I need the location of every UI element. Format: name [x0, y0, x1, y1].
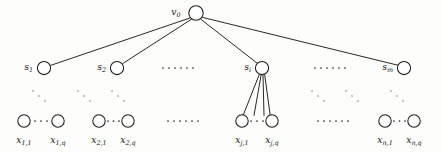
edge-si-to-xj-mid-right	[263, 75, 264, 116]
group-2-ellipsis	[107, 120, 120, 122]
edge-si-to-xj-mid-left	[254, 75, 261, 116]
node-xnq-circle[interactable]	[408, 115, 420, 127]
leaf-group-n: xn,1 xn,q	[377, 115, 421, 147]
node-x21-circle[interactable]	[93, 115, 105, 127]
node-xj1-label: xj,1	[235, 134, 248, 147]
node-x11-circle[interactable]	[18, 115, 30, 127]
node-v0[interactable]: v0	[171, 6, 203, 21]
middle-row-ellipsis-left	[162, 67, 194, 69]
node-x2q-circle[interactable]	[122, 115, 134, 127]
node-s1-label: s1	[24, 61, 33, 74]
node-xn1-label: xn,1	[377, 134, 392, 147]
leaf-group-1: x1,1 x1,q	[16, 115, 65, 147]
node-xj1-circle[interactable]	[236, 115, 248, 127]
middle-level-nodes: s1 s2 si sm	[24, 61, 410, 75]
tree-diagram-canvas: v0 s1 s2 si	[0, 0, 442, 152]
node-xjq-label: xj,q	[265, 134, 278, 147]
edge-si-to-xj1	[243, 74, 259, 115]
node-v0-circle[interactable]	[189, 6, 203, 20]
diagonal-dots-4	[311, 90, 325, 102]
node-si-label: si	[244, 61, 251, 74]
si-to-leaf-edges	[243, 74, 270, 115]
group-3-ellipsis	[250, 120, 264, 122]
node-si-circle[interactable]	[255, 61, 268, 74]
node-sm-circle[interactable]	[397, 61, 410, 74]
node-s2[interactable]: s2	[97, 61, 123, 75]
edge-root-to-s2	[123, 19, 192, 63]
edge-root-to-si	[201, 19, 257, 63]
node-xjq-circle[interactable]	[266, 115, 278, 127]
node-x1q-circle[interactable]	[52, 115, 64, 127]
node-s2-label: s2	[97, 61, 106, 74]
diagonal-dots-1	[32, 90, 46, 102]
edge-si-to-xjq	[265, 74, 271, 115]
diagonal-dots-6	[390, 90, 404, 102]
diagonal-dots-2	[77, 90, 91, 102]
leaf-row-ellipsis-right	[317, 120, 349, 122]
leaf-row-ellipsis-left	[167, 120, 199, 122]
diagonal-dots-3	[111, 90, 125, 102]
diagonal-dots-5	[345, 90, 359, 102]
node-xn1-circle[interactable]	[379, 115, 391, 127]
node-s1-circle[interactable]	[37, 61, 50, 74]
root-to-middle-edges	[51, 17, 398, 65]
node-x21-label: x2,1	[91, 134, 106, 147]
node-x1q-label: x1,q	[50, 134, 65, 147]
edge-root-to-sm	[203, 17, 398, 65]
leaf-group-2: x2,1 x2,q	[91, 115, 135, 147]
node-v0-label: v0	[171, 6, 180, 19]
node-x2q-label: x2,q	[120, 134, 135, 147]
group-1-ellipsis	[34, 120, 48, 122]
edge-root-to-s1	[51, 18, 190, 65]
tree-diagram-svg: v0 s1 s2 si	[0, 0, 442, 152]
middle-row-ellipsis-right	[314, 67, 346, 69]
leaf-group-j: xj,1 xj,q	[235, 115, 278, 147]
node-s2-circle[interactable]	[110, 61, 123, 74]
node-s1[interactable]: s1	[24, 61, 50, 75]
node-xnq-label: xn,q	[406, 134, 421, 147]
node-sm[interactable]: sm	[382, 61, 410, 75]
group-4-ellipsis	[393, 120, 406, 122]
node-x11-label: x1,1	[16, 134, 31, 147]
